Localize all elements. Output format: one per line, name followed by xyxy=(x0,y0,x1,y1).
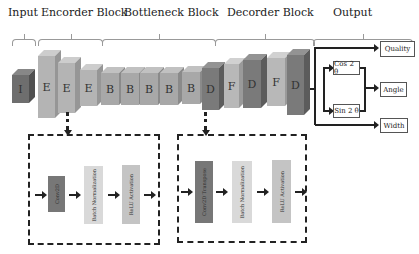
block-label: B xyxy=(101,73,119,105)
conv2d-transpose-label: Conv2D Transpose xyxy=(201,168,207,216)
relu-label: ReLU Activation xyxy=(128,174,134,215)
arrow-to-cos xyxy=(323,67,330,69)
brace-input xyxy=(12,39,36,46)
conv2d-transpose-layer: Conv2D Transpose xyxy=(195,161,213,223)
arrow-to-sin xyxy=(323,110,330,112)
sin-output: Sin 2 θ xyxy=(333,104,360,118)
block-label: D xyxy=(287,55,304,115)
conv2d-label: Conv2D xyxy=(54,184,60,204)
width-output: Width xyxy=(380,118,408,133)
header-output: Output xyxy=(333,6,372,19)
arrow xyxy=(144,194,152,196)
arrow-to-width xyxy=(315,124,375,126)
arrow-to-quality xyxy=(315,47,375,49)
cos-output: Cos 2 θ xyxy=(333,61,360,75)
trig-branch xyxy=(323,67,325,111)
brace-bottleneck xyxy=(102,39,216,46)
encoder-block: E xyxy=(80,64,103,106)
block-label: B xyxy=(121,73,139,105)
block-label: D xyxy=(202,68,219,110)
relu-layer: ReLU Activation xyxy=(122,165,140,224)
relu-layer: ReLU Activation xyxy=(272,160,291,223)
block-label: F xyxy=(224,64,239,108)
decoder-block: D xyxy=(243,54,267,108)
conv2d-layer: Conv2D xyxy=(48,176,65,212)
encoder-block: E xyxy=(58,57,81,113)
arrow xyxy=(181,191,189,193)
block-label: B xyxy=(182,72,200,104)
batchnorm-label: Batch Normalization xyxy=(239,166,245,218)
header-bottleneck: Bottleneck Block xyxy=(124,6,219,19)
block-label: E xyxy=(38,56,55,118)
header-decoder: Decorder Block xyxy=(227,6,314,19)
arrow xyxy=(35,194,43,196)
brace-encoder xyxy=(38,39,103,46)
decoder-block: D xyxy=(287,49,310,115)
relu-label: ReLU Activation xyxy=(279,171,285,212)
header-input: Input xyxy=(8,6,38,19)
batchnorm-layer: Batch Normalization xyxy=(84,166,103,224)
arrow xyxy=(295,191,303,193)
arrow xyxy=(108,194,116,196)
fusion-block: F xyxy=(224,58,245,108)
block-label: I xyxy=(12,75,29,103)
block-label: E xyxy=(80,70,97,106)
arrow-to-angle xyxy=(365,87,375,89)
input-block: I xyxy=(12,69,35,103)
decoder-block: D xyxy=(202,62,225,110)
block-label: D xyxy=(243,60,261,108)
quality-output: Quality xyxy=(380,41,415,57)
output-trunk xyxy=(314,47,316,125)
arrow xyxy=(216,191,224,193)
block-label: B xyxy=(140,73,158,105)
encoder-detail-pointer xyxy=(66,112,69,130)
angle-output: Angle xyxy=(380,82,407,97)
block-label: B xyxy=(160,73,178,105)
block-label: E xyxy=(58,63,75,113)
arrow xyxy=(69,194,77,196)
brace-decoder xyxy=(215,39,315,46)
arrow xyxy=(257,191,265,193)
decoder-detail-pointer xyxy=(204,112,207,130)
batchnorm-layer: Batch Normalization xyxy=(232,161,252,223)
header-encoder: Encorder Block xyxy=(41,6,128,19)
batchnorm-label: Batch Normalization xyxy=(91,169,97,221)
merge-line xyxy=(364,67,366,112)
block-label: F xyxy=(267,58,285,106)
bottleneck-block: B xyxy=(160,67,184,105)
